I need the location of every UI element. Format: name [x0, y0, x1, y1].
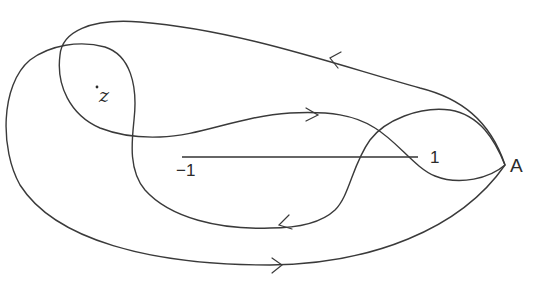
label-minus-one: −1 — [176, 162, 195, 179]
diagram-canvas — [0, 0, 560, 291]
label-A: A — [510, 156, 523, 175]
arrow-right-middle — [306, 108, 318, 121]
label-one: 1 — [430, 149, 439, 166]
contour-diagram: z −1 1 A — [0, 0, 560, 291]
point-z-dot — [96, 86, 99, 89]
label-z: z — [99, 86, 109, 105]
arrow-left-top — [330, 52, 341, 68]
